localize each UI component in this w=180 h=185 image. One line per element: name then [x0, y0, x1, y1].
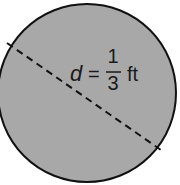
circle-shape — [0, 4, 176, 182]
fraction-denominator: 3 — [107, 72, 118, 94]
circle-diagram: d = 1 3 ft — [0, 0, 180, 185]
fraction-numerator: 1 — [107, 45, 118, 67]
equals-sign: = — [88, 63, 100, 85]
diameter-variable: d — [70, 61, 83, 86]
unit-label: ft — [127, 63, 139, 85]
